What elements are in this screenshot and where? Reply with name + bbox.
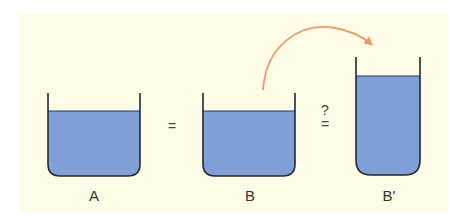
container-b-label: B [245,188,255,203]
diagram-stage: = ? = A B B' [0,0,450,216]
container-a-liquid [48,111,140,176]
container-a [48,93,140,176]
equals-sign-b-bprime: = [321,117,329,131]
container-b-prime-liquid [356,76,420,175]
container-a-label: A [89,188,99,203]
container-b-liquid [203,111,295,176]
container-b-prime [356,57,420,175]
diagram-drawing [0,0,450,216]
container-b [203,93,295,176]
container-b-prime-label: B' [383,188,396,203]
equals-sign-a-b: = [168,119,176,133]
pour-arrow-icon [263,27,371,90]
question-mark: ? [321,103,329,117]
